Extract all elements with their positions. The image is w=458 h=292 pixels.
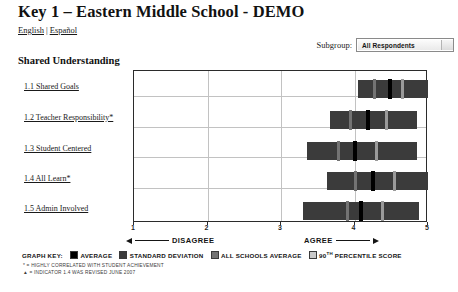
section-title: Shared Understanding [18,55,120,66]
legend-superscript: TH [327,251,333,256]
x-axis-tick-label: 1 [131,224,135,231]
footnote-2: ▲ = INDICATOR 1.4 WAS REVISED JUNE 2007 [23,269,164,276]
footnote-list: * = HIGHLY CORRELATED WITH STUDENT ACHIE… [23,262,164,276]
legend-swatch-icon [119,251,127,259]
language-bar: English|Español [18,25,77,35]
subgroup-control: Subgroup: All Respondents [317,38,454,52]
chart-marker [373,79,376,99]
chart-legend: GRAPH KEY: AVERAGESTANDARD DEVIATIONALL … [22,251,402,259]
subgroup-label: Subgroup: [317,40,352,50]
chart-marker [371,171,375,191]
legend-entry: ALL SCHOOLS AVERAGE [211,251,302,259]
legend-swatch-icon [211,251,219,259]
page-title: Key 1 – Eastern Middle School - DEMO [18,2,304,22]
chart-bar-row [134,111,426,129]
legend-swatch-icon [309,251,317,259]
arrow-line-right [336,240,370,242]
legend-entry-label: STANDARD DEVIATION [130,252,204,259]
legend-title: GRAPH KEY: [22,252,63,259]
language-link-english[interactable]: English [18,25,44,35]
x-axis-tick-label: 5 [425,224,429,231]
legend-entry-label: ALL SCHOOLS AVERAGE [221,252,302,259]
indicator-link-2[interactable]: 1.2 Teacher Responsibility* [24,113,113,122]
arrow-line-left [135,240,169,242]
indicator-link-1[interactable]: 1.1 Shared Goals [24,82,79,91]
arrow-left-icon [126,238,132,244]
chart-marker [381,201,384,221]
indicator-link-3[interactable]: 1.3 Student Centered [24,144,91,153]
chart-marker [366,110,370,130]
chart-marker [401,79,404,99]
legend-swatch-icon [70,251,78,259]
chart-bar-row [134,202,426,220]
chart-marker [353,141,357,161]
chart-marker [349,110,352,130]
chart-marker [337,141,340,161]
chart-marker [375,141,378,161]
chart-plot-area [133,70,427,222]
language-link-spanish[interactable]: Español [50,25,77,35]
legend-entry-label: 90TH PERCENTILE SCORE [319,251,402,259]
chart-marker [388,79,392,99]
chart-marker [354,171,357,191]
chart-marker [385,110,388,130]
chart-marker [346,201,349,221]
agree-anchor: AGREE [304,236,379,245]
footnote-1: * = HIGHLY CORRELATED WITH STUDENT ACHIE… [23,262,164,269]
chevron-down-icon[interactable] [441,40,453,50]
chart-marker [393,171,396,191]
x-axis-tick-label: 2 [205,224,209,231]
legend-entry-label: AVERAGE [80,252,112,259]
chart-bar-row [134,172,426,190]
chart-bar-row [134,142,426,160]
agree-label: AGREE [304,236,333,245]
legend-entry: 90TH PERCENTILE SCORE [309,251,402,259]
disagree-anchor: DISAGREE [126,236,214,245]
chart-bar-row [134,80,426,98]
disagree-label: DISAGREE [172,236,214,245]
legend-entry: STANDARD DEVIATION [119,251,203,259]
chart-range-bar [330,111,417,129]
x-axis-direction-anchors: DISAGREE AGREE [126,236,431,248]
x-axis-tick-label: 4 [352,224,356,231]
arrow-right-icon [373,238,379,244]
indicator-link-5[interactable]: 1.5 Admin Involved [24,204,88,213]
chart-marker [359,201,363,221]
indicator-link-4[interactable]: 1.4 All Learn* [24,174,70,183]
indicator-label-list: 1.1 Shared Goals1.2 Teacher Responsibili… [24,70,129,222]
subgroup-selected-value: All Respondents [357,42,415,49]
chart-range-bar [307,142,417,160]
x-axis-ticks: 12345 [133,222,427,234]
legend-entry: AVERAGE [70,251,112,259]
subgroup-select[interactable]: All Respondents [356,38,454,52]
chart-range-bar [358,80,428,98]
chart-range-bar [327,172,428,190]
x-axis-tick-label: 3 [278,224,282,231]
